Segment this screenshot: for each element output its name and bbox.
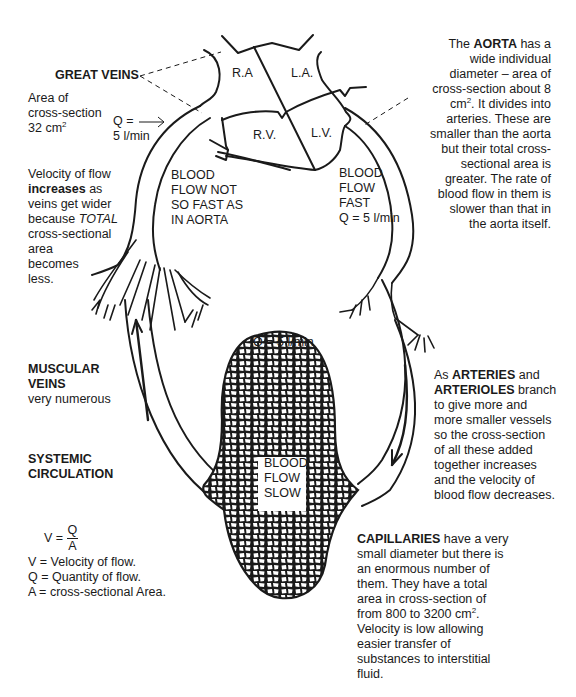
note-line: greater. The rate of <box>430 172 551 187</box>
note-bold: CAPILLARIES <box>357 532 440 546</box>
note-text: . <box>476 607 479 621</box>
flow-line: FAST <box>339 196 400 211</box>
flow-line: Q = 5 l/min <box>339 211 400 226</box>
flow-line: IN AORTA <box>171 213 243 228</box>
great-veins-area-line: cross-section <box>28 106 102 121</box>
label-left-ventricle: L.V. <box>311 126 332 141</box>
note-line: of all these added <box>434 443 556 458</box>
label-right-atrium: R.A <box>232 66 253 81</box>
note-line: As ARTERIES and <box>434 368 556 383</box>
formula-lhs: V = <box>44 531 63 545</box>
note-text: As <box>434 368 452 382</box>
note-line: blood flow in them is <box>430 187 551 202</box>
great-veins-area-value: 32 cm2 <box>28 121 102 136</box>
muscular-veins-title: VEINS <box>28 377 111 392</box>
title-line: CIRCULATION <box>28 467 113 482</box>
inflow-q-label: Q = 5 l/min <box>113 114 150 144</box>
note-text: has a <box>517 37 551 51</box>
note-line: area in cross-section of <box>357 592 508 607</box>
note-line: ARTERIOLES branch <box>434 383 556 398</box>
flow-line: FLOW NOT <box>171 183 243 198</box>
note-text: cm <box>450 97 467 111</box>
inflow-q-line: 5 l/min <box>113 129 150 144</box>
formula-definition: V = Velocity of flow. <box>28 555 166 570</box>
vein-velocity-note: Velocity of flow increases as veins get … <box>28 167 118 287</box>
aorta-flow-label: BLOOD FLOW FAST Q = 5 l/min <box>339 166 400 226</box>
note-line: becomes <box>28 257 118 272</box>
note-line: wide individual <box>430 52 551 67</box>
note-line: cross-section about 8 <box>430 82 551 97</box>
note-text: from 800 to 3200 cm <box>357 607 472 621</box>
note-line: from 800 to 3200 cm2. <box>357 607 508 622</box>
note-line: cm2. It divides into <box>430 97 551 112</box>
label-left-atrium: L.A. <box>291 66 313 81</box>
note-line: diameter – area of <box>430 67 551 82</box>
note-line: easier transfer of <box>357 637 508 652</box>
note-line: substances to interstitial <box>357 652 508 667</box>
formula-definition: Q = Quantity of flow. <box>28 570 166 585</box>
note-line: smaller than the aorta <box>430 127 551 142</box>
note-italic: TOTAL <box>79 212 118 226</box>
note-line: the aorta itself. <box>430 217 551 232</box>
note-line: Velocity is low allowing <box>357 622 508 637</box>
note-line: less. <box>28 272 118 287</box>
formula-denominator: A <box>67 539 79 554</box>
note-bold: increases <box>28 182 86 196</box>
note-line: so the cross-section <box>434 428 556 443</box>
great-veins-area-line: Area of <box>28 91 102 106</box>
label-right-ventricle: R.V. <box>253 128 276 143</box>
flow-line: BLOOD <box>171 168 243 183</box>
note-line: and the velocity of <box>434 473 556 488</box>
note-text: . It divides into <box>471 97 551 111</box>
great-veins-area: Area of cross-section 32 cm2 <box>28 91 102 136</box>
note-line: increases as <box>28 182 118 197</box>
formula-fraction: Q A <box>67 523 79 554</box>
flow-line: FLOW <box>264 471 308 486</box>
note-line: to give more and <box>434 398 556 413</box>
note-line: cross-sectional <box>28 227 118 242</box>
flow-line: FLOW <box>339 181 400 196</box>
note-line: sectional area is <box>430 157 551 172</box>
note-line: veins get wider <box>28 197 118 212</box>
systemic-circulation-title: SYSTEMIC CIRCULATION <box>28 452 113 482</box>
formula-definitions: V = Velocity of flow. Q = Quantity of fl… <box>28 555 166 600</box>
inflow-q-line: Q = <box>113 114 150 129</box>
vein-flow-label: BLOOD FLOW NOT SO FAST AS IN AORTA <box>171 168 243 228</box>
flow-line: SO FAST AS <box>171 198 243 213</box>
note-line: but their total cross- <box>430 142 551 157</box>
note-bold: ARTERIOLES <box>434 383 515 397</box>
note-line: slower than that in <box>430 202 551 217</box>
note-line: small diameter but there is <box>357 547 508 562</box>
note-text: The <box>448 37 473 51</box>
arteries-note: As ARTERIES and ARTERIOLES branch to giv… <box>434 368 556 503</box>
note-bold: ARTERIES <box>452 368 515 382</box>
flow-line: SLOW <box>264 486 308 501</box>
note-line: blood flow decreases. <box>434 488 556 503</box>
formula-numerator: Q <box>67 523 79 539</box>
note-line: area <box>28 242 118 257</box>
note-line: arteries. These are <box>430 112 551 127</box>
note-text: as <box>86 182 103 196</box>
title-line: SYSTEMIC <box>28 452 113 467</box>
muscular-veins-sub: very numerous <box>28 392 111 407</box>
note-line: an enormous number of <box>357 562 508 577</box>
area-exponent: 2 <box>62 120 66 129</box>
flow-line: BLOOD <box>264 456 308 471</box>
heart <box>200 35 366 170</box>
note-line: together increases <box>434 458 556 473</box>
distributing-artery <box>358 280 415 506</box>
muscular-veins-title: MUSCULAR <box>28 362 111 377</box>
note-line: CAPILLARIES have a very <box>357 532 508 547</box>
note-text: because <box>28 212 79 226</box>
note-bold: AORTA <box>473 37 517 51</box>
muscular-veins-label: MUSCULAR VEINS very numerous <box>28 362 111 407</box>
note-line: The AORTA has a <box>430 37 551 52</box>
note-line: them. They have a total <box>357 577 508 592</box>
area-value: 32 cm <box>28 121 62 135</box>
flow-line: BLOOD <box>339 166 400 181</box>
note-text: have a very <box>440 532 508 546</box>
velocity-formula: V = Q A <box>44 523 78 554</box>
note-line: more smaller vessels <box>434 413 556 428</box>
note-line: Velocity of flow <box>28 167 118 182</box>
note-line: because TOTAL <box>28 212 118 227</box>
